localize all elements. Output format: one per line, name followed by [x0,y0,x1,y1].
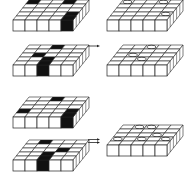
front-cube [61,160,73,171]
front-cube [143,20,155,31]
front-cube [49,160,61,171]
front-cube [131,65,143,76]
front-cube [49,20,61,31]
double-arrow-icon [88,138,100,144]
dark-front-cube [37,65,49,76]
front-cube [119,65,131,76]
result-slab [107,125,183,156]
front-cube [25,160,37,171]
front-cube [107,20,119,31]
front-cube [13,65,25,76]
front-cube [37,20,49,31]
front-cube [13,160,25,171]
front-cube [107,145,119,156]
front-cube [131,20,143,31]
arrow-icon [88,45,100,48]
front-cube [119,145,131,156]
result-slab [107,45,183,76]
front-cube [155,65,167,76]
front-cube [131,145,143,156]
front-cube [25,117,37,128]
dark-front-cube [37,160,49,171]
front-cube [37,117,49,128]
front-cube [107,65,119,76]
input-slab [13,0,89,31]
front-cube [143,65,155,76]
diagram-canvas [0,0,193,186]
front-cube [13,117,25,128]
front-cube [155,20,167,31]
front-cube [155,145,167,156]
input-slab [13,45,89,76]
front-cube [25,65,37,76]
front-cube [49,117,61,128]
result-slab [107,0,183,31]
front-cube [61,65,73,76]
input-slab [13,140,89,171]
input-slab [13,97,89,128]
dark-front-cube [61,20,73,31]
front-cube [25,20,37,31]
dark-front-cube [61,117,73,128]
front-cube [143,145,155,156]
front-cube [13,20,25,31]
front-cube [119,20,131,31]
front-cube [49,65,61,76]
